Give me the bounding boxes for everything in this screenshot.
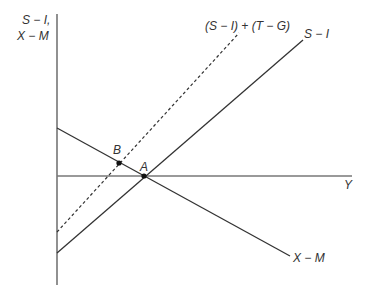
point-a-label: A [139, 160, 148, 174]
y-axis-label-line1: S − I, [22, 13, 50, 27]
point-a [141, 173, 146, 178]
x-axis-label: Y [344, 178, 353, 192]
y-axis-label-line2: X − M [16, 29, 49, 43]
point-b [116, 160, 121, 165]
s-minus-i-label: S − I [304, 27, 330, 41]
dashed-curve-label: (S − I) + (T − G) [205, 19, 290, 33]
s-minus-i-line [57, 40, 303, 253]
diagram-svg: S − I, X − M Y (S − I) + (T − G) S − I X… [0, 0, 371, 299]
x-minus-m-line [57, 128, 290, 256]
s-minus-i-plus-t-minus-g-line [57, 33, 239, 232]
diagram-canvas: S − I, X − M Y (S − I) + (T − G) S − I X… [0, 0, 371, 299]
x-minus-m-label: X − M [292, 251, 325, 265]
point-b-label: B [113, 143, 121, 157]
